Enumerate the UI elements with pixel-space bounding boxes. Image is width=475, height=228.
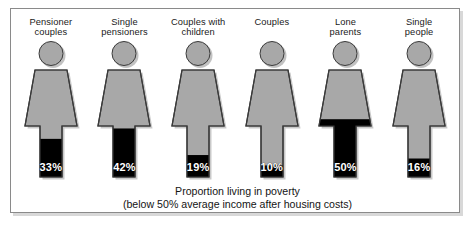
pictogram-figure: Lone parents50% bbox=[311, 8, 379, 183]
value-label: 50% bbox=[334, 161, 357, 173]
person-glyph: 16% bbox=[385, 41, 453, 177]
person-glyph: 19% bbox=[164, 41, 232, 177]
pictogram-figure: Couples with children19% bbox=[164, 8, 232, 183]
value-label: 10% bbox=[260, 161, 283, 173]
person-head-icon bbox=[112, 41, 137, 66]
person-head-icon bbox=[38, 41, 63, 66]
person-glyph: 10% bbox=[238, 41, 306, 177]
value-label: 19% bbox=[187, 161, 210, 173]
value-label: 33% bbox=[40, 161, 63, 173]
value-label: 16% bbox=[408, 161, 431, 173]
caption-line-2: (below 50% average income after housing … bbox=[0, 198, 475, 210]
figure-row: Pensioner couples33%Single pensioners42%… bbox=[10, 8, 460, 213]
person-glyph: 42% bbox=[90, 41, 158, 177]
person-glyph: 50% bbox=[311, 41, 379, 177]
person-head-icon bbox=[186, 41, 211, 66]
figure-category-label: Single people bbox=[405, 17, 434, 39]
person-head-icon bbox=[407, 41, 432, 66]
caption-line-1: Proportion living in poverty bbox=[0, 185, 475, 197]
person-head-icon bbox=[333, 41, 358, 66]
value-label: 42% bbox=[113, 161, 136, 173]
figure-category-label: Couples bbox=[254, 17, 289, 39]
figure-category-label: Single pensioners bbox=[101, 17, 147, 39]
pictogram-figure: Single people16% bbox=[385, 8, 453, 183]
figure-category-label: Pensioner couples bbox=[29, 17, 72, 39]
person-head-icon bbox=[259, 41, 284, 66]
pictogram-figure: Single pensioners42% bbox=[90, 8, 158, 183]
chart-caption: Proportion living in poverty (below 50% … bbox=[0, 185, 475, 210]
figure-category-label: Couples with children bbox=[171, 17, 225, 39]
poverty-pictogram-chart: Pensioner couples33%Single pensioners42%… bbox=[0, 0, 475, 228]
pictogram-figure: Couples10% bbox=[238, 8, 306, 183]
person-glyph: 33% bbox=[17, 41, 85, 177]
pictogram-figure: Pensioner couples33% bbox=[17, 8, 85, 183]
figure-category-label: Lone parents bbox=[330, 17, 362, 39]
